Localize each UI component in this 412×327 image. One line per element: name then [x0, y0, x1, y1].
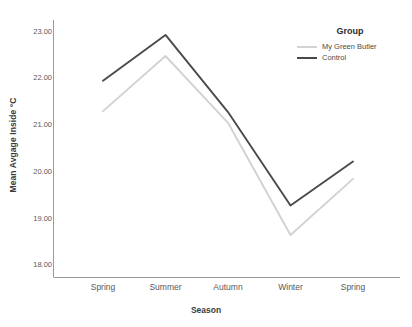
x-axis-tick: Spring — [91, 282, 116, 292]
legend-line-swatch-icon — [297, 57, 317, 59]
y-axis-tick: 18.00 — [16, 261, 52, 269]
legend-items: My Green ButlerControl — [297, 42, 409, 62]
legend-line-swatch-icon — [297, 46, 317, 48]
y-axis-tick: 22.00 — [16, 74, 52, 82]
legend-item-label: My Green Butler — [322, 42, 377, 51]
legend-title: Group — [291, 26, 409, 36]
y-axis-tick: 20.00 — [16, 168, 52, 176]
x-axis-tick: Autumn — [213, 282, 242, 292]
line-chart: Mean Avgage Inside °C 18.0019.0020.0021.… — [0, 0, 412, 327]
series-lines — [103, 35, 353, 235]
y-axis-tick: 19.00 — [16, 215, 52, 223]
legend-item[interactable]: Control — [297, 53, 409, 62]
series-line — [103, 56, 353, 235]
x-axis-tick: Spring — [341, 282, 366, 292]
x-axis-title: Season — [0, 305, 412, 315]
legend-item-label: Control — [322, 53, 346, 62]
x-axis-tick: Winter — [278, 282, 303, 292]
y-axis-tick: 23.00 — [16, 28, 52, 36]
y-axis-tick-labels: 18.0019.0020.0021.0022.0023.00 — [14, 0, 52, 327]
x-axis-tick: Summer — [149, 282, 181, 292]
legend-item[interactable]: My Green Butler — [297, 42, 409, 51]
x-axis-title-label: Season — [191, 305, 221, 315]
y-axis-tick: 21.00 — [16, 121, 52, 129]
legend: Group My Green ButlerControl — [297, 26, 409, 64]
